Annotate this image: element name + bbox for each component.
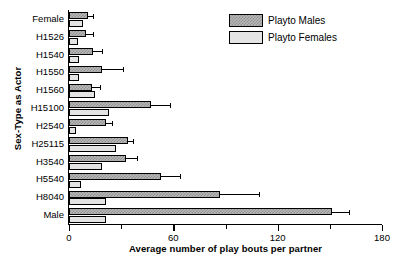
bar-females (69, 38, 78, 45)
bar-females (69, 145, 116, 152)
y-tick-label: Female (0, 13, 64, 24)
bar-males (69, 208, 332, 215)
bar-females (69, 109, 109, 116)
legend-label-females: Playto Females (268, 32, 337, 43)
bar-males (69, 48, 93, 55)
error-bar-cap (102, 49, 103, 54)
y-tick-label: H1540 (0, 49, 64, 60)
x-tick-major (382, 225, 383, 231)
error-bar-cap (123, 67, 124, 72)
x-tick-major (278, 225, 279, 231)
y-tick-label: H5540 (0, 173, 64, 184)
bar-males (69, 66, 102, 73)
y-tick-label: H15100 (0, 102, 64, 113)
bar-females (69, 91, 95, 98)
legend-swatch-males (229, 14, 263, 27)
chart-figure: Sex-Type as Actor 060120180 FemaleH1526H… (0, 0, 418, 263)
x-tick-label: 0 (66, 232, 71, 243)
bar-males (69, 173, 161, 180)
error-bar-line (86, 34, 93, 35)
x-tick-label: 60 (168, 232, 179, 243)
x-tick-minor (121, 225, 122, 229)
error-bar-cap (112, 121, 113, 126)
y-tick-label: H8040 (0, 191, 64, 202)
y-tick-label: H1560 (0, 84, 64, 95)
error-bar-line (92, 87, 101, 88)
y-tick-label: H25115 (0, 138, 64, 149)
error-bar-cap (349, 210, 350, 215)
error-bar-cap (133, 139, 134, 144)
bar-males (69, 137, 128, 144)
error-bar-line (93, 51, 102, 52)
error-bar-cap (259, 192, 260, 197)
y-tick-label: H2540 (0, 120, 64, 131)
x-tick-label: 120 (270, 232, 286, 243)
error-bar-line (332, 212, 349, 213)
bar-males (69, 30, 86, 37)
y-tick-label: Male (0, 209, 64, 220)
bar-females (69, 216, 106, 223)
bar-females (69, 74, 79, 81)
error-bar-line (161, 176, 180, 177)
bar-females (69, 20, 83, 27)
bar-females (69, 127, 76, 134)
error-bar-cap (100, 85, 101, 90)
y-tick-label: H1550 (0, 66, 64, 77)
error-bar-cap (137, 156, 138, 161)
bar-males (69, 101, 151, 108)
bar-males (69, 155, 126, 162)
legend-item-females: Playto Females (229, 31, 337, 44)
x-tick-minor (330, 225, 331, 229)
y-tick-label: H1526 (0, 31, 64, 42)
bar-females (69, 198, 106, 205)
error-bar-line (102, 69, 123, 70)
error-bar-line (220, 194, 258, 195)
x-tick-label: 180 (374, 232, 390, 243)
error-bar-line (151, 105, 170, 106)
bar-males (69, 84, 92, 91)
bar-males (69, 191, 220, 198)
chart-legend: Playto Males Playto Females (229, 14, 337, 48)
error-bar-line (106, 123, 113, 124)
bar-males (69, 12, 88, 19)
bar-females (69, 163, 102, 170)
error-bar-cap (93, 32, 94, 37)
x-axis-label: Average number of play bouts per partner (69, 243, 382, 254)
legend-label-males: Playto Males (268, 15, 325, 26)
legend-item-males: Playto Males (229, 14, 337, 27)
x-tick-major (69, 225, 70, 231)
error-bar-cap (93, 14, 94, 19)
bar-females (69, 181, 81, 188)
x-tick-minor (226, 225, 227, 229)
x-tick-major (173, 225, 174, 231)
y-tick-label: H3540 (0, 156, 64, 167)
bar-males (69, 119, 106, 126)
error-bar-cap (170, 103, 171, 108)
legend-swatch-females (229, 31, 263, 44)
error-bar-line (126, 158, 136, 159)
error-bar-cap (180, 174, 181, 179)
bar-females (69, 56, 79, 63)
